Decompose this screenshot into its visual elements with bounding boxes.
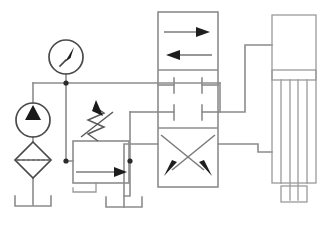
line-work-port-B [218, 144, 272, 152]
load-block-rect [281, 186, 307, 202]
relief-valve [73, 100, 129, 183]
cylinder-barrel [272, 15, 316, 183]
line-work-port-A [218, 45, 272, 112]
hydraulic-pump [16, 103, 50, 137]
junction-relief-inlet [63, 158, 68, 163]
valve-position-closed-center [158, 78, 218, 120]
valve-arrow-right-head [196, 27, 210, 37]
pressure-gauge [49, 40, 83, 74]
line-relief-drain [73, 183, 96, 192]
filter [15, 142, 51, 178]
valve-cross-line-a [172, 135, 215, 170]
schematic-canvas [0, 0, 332, 227]
valve-envelope [158, 12, 218, 187]
junction-relief-outlet [127, 158, 132, 163]
valve-position-parallel [164, 27, 212, 60]
conductor-lines [33, 45, 272, 207]
valve-arrow-left-head [166, 50, 180, 60]
valve-position-crossed [161, 135, 215, 176]
pump-flow-triangle [25, 105, 41, 120]
cylinder-piston [272, 70, 316, 80]
relief-adjust-arrowhead [92, 100, 103, 116]
cylinder [272, 15, 316, 200]
load-block [281, 186, 307, 202]
gauge-circle [49, 40, 83, 74]
valve-cross-line-b [161, 135, 204, 170]
directional-valve [158, 12, 218, 187]
junction-pressure-line [63, 80, 68, 85]
relief-valve-envelope [73, 141, 129, 183]
relief-flow-arrowhead [114, 167, 127, 177]
gauge-needle-tail [60, 60, 66, 66]
hydraulic-schematic-diagram [0, 0, 332, 227]
